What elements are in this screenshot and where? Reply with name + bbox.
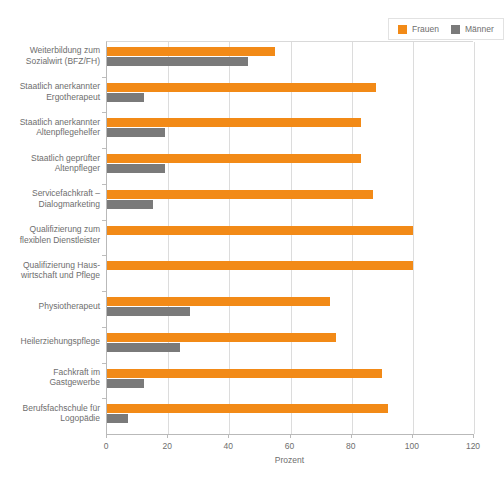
y-axis-label: Servicefachkraft –Dialogmarketing xyxy=(0,188,100,209)
bar-männer[interactable] xyxy=(107,414,128,423)
y-axis-label: Qualifizierung Haus-wirtschaft und Pfleg… xyxy=(0,260,100,281)
y-axis-label-line: Staatlich geprüfter xyxy=(0,153,100,164)
x-axis-tick-label: 80 xyxy=(346,441,355,451)
x-axis-tick xyxy=(228,434,229,438)
legend-item-frauen[interactable]: Frauen xyxy=(398,25,439,34)
y-axis-labels: Weiterbildung zumSozialwirt (BFZ/FH)Staa… xyxy=(0,41,100,434)
bar-frauen[interactable] xyxy=(107,226,413,235)
y-axis-label-line: Ergotherapeut xyxy=(0,92,100,103)
x-axis-title: Prozent xyxy=(0,455,503,465)
y-axis-label-line: flexiblen Dienstleister xyxy=(0,235,100,246)
x-axis-tick xyxy=(167,434,168,438)
bar-group xyxy=(107,185,473,221)
bar-group xyxy=(107,113,473,149)
x-axis-tick xyxy=(473,434,474,438)
y-axis-label-line: Qualifizierung zum xyxy=(0,224,100,235)
legend-swatch-maenner xyxy=(451,25,460,34)
y-axis-label-line: Gastgewerbe xyxy=(0,377,100,388)
bar-frauen[interactable] xyxy=(107,404,388,413)
bar-frauen[interactable] xyxy=(107,369,382,378)
y-axis-label: Berufsfachschule fürLogopädie xyxy=(0,403,100,424)
gridline-120 xyxy=(474,42,475,434)
bar-männer[interactable] xyxy=(107,343,180,352)
y-axis-label: Heilerziehungspflege xyxy=(0,336,100,347)
bar-group xyxy=(107,42,473,78)
x-axis-tick-label: 120 xyxy=(466,441,480,451)
y-axis-label-line: Staatlich anerkannter xyxy=(0,117,100,128)
y-axis-label: Staatlich anerkannterAltenpflegehelfer xyxy=(0,117,100,138)
bar-group xyxy=(107,149,473,185)
bar-frauen[interactable] xyxy=(107,154,361,163)
y-axis-label-line: Altenpfleger xyxy=(0,163,100,174)
legend-swatch-frauen xyxy=(398,25,407,34)
y-axis-label-line: Servicefachkraft – xyxy=(0,188,100,199)
x-axis-title-text: Prozent xyxy=(275,455,304,465)
bar-group xyxy=(107,78,473,114)
plot-area xyxy=(106,41,473,434)
y-axis-label-line: Dialogmarketing xyxy=(0,199,100,210)
chart-legend: Frauen Männer xyxy=(388,18,504,40)
y-axis-label-line: Fachkraft im xyxy=(0,367,100,378)
x-axis-tick-label: 60 xyxy=(285,441,294,451)
y-axis-label-line: Logopädie xyxy=(0,413,100,424)
bar-group xyxy=(107,221,473,257)
y-axis-label: Staatlich anerkannterErgotherapeut xyxy=(0,81,100,102)
y-axis-label-line: Qualifizierung Haus- xyxy=(0,260,100,271)
bar-männer[interactable] xyxy=(107,379,144,388)
y-axis-label: Qualifizierung zumflexiblen Dienstleiste… xyxy=(0,224,100,245)
y-axis-label-line: Staatlich anerkannter xyxy=(0,81,100,92)
x-axis-tick xyxy=(290,434,291,438)
x-axis-tick xyxy=(351,434,352,438)
y-axis-label: Physiotherapeut xyxy=(0,301,100,312)
bar-männer[interactable] xyxy=(107,164,165,173)
legend-label-frauen: Frauen xyxy=(412,25,439,34)
bar-männer[interactable] xyxy=(107,93,144,102)
bar-männer[interactable] xyxy=(107,57,248,66)
y-axis-label: Fachkraft imGastgewerbe xyxy=(0,367,100,388)
y-axis-label-line: wirtschaft und Pflege xyxy=(0,270,100,281)
bar-frauen[interactable] xyxy=(107,83,376,92)
bar-group xyxy=(107,256,473,292)
bar-frauen[interactable] xyxy=(107,190,373,199)
bar-group xyxy=(107,328,473,364)
bar-männer[interactable] xyxy=(107,200,153,209)
bar-frauen[interactable] xyxy=(107,47,275,56)
bar-groups xyxy=(107,42,473,434)
bar-männer[interactable] xyxy=(107,128,165,137)
y-axis-label-line: Sozialwirt (BFZ/FH) xyxy=(0,56,100,67)
y-axis-label: Weiterbildung zumSozialwirt (BFZ/FH) xyxy=(0,45,100,66)
bar-frauen[interactable] xyxy=(107,297,330,306)
x-axis-tick xyxy=(412,434,413,438)
x-axis-tick-label: 40 xyxy=(224,441,233,451)
bar-frauen[interactable] xyxy=(107,118,361,127)
x-axis-tick xyxy=(106,434,107,438)
legend-label-maenner: Männer xyxy=(465,25,494,34)
bar-group xyxy=(107,292,473,328)
bar-group xyxy=(107,399,473,435)
y-axis-label-line: Berufsfachschule für xyxy=(0,403,100,414)
bar-group xyxy=(107,364,473,400)
x-axis-tick-label: 0 xyxy=(104,441,109,451)
y-axis-label-line: Physiotherapeut xyxy=(0,301,100,312)
y-axis-label: Staatlich geprüfterAltenpfleger xyxy=(0,153,100,174)
bar-frauen[interactable] xyxy=(107,333,336,342)
x-axis-tick-label: 100 xyxy=(405,441,419,451)
y-axis-label-line: Weiterbildung zum xyxy=(0,45,100,56)
y-axis-label-line: Altenpflegehelfer xyxy=(0,127,100,138)
bar-frauen[interactable] xyxy=(107,261,413,270)
legend-item-maenner[interactable]: Männer xyxy=(451,25,494,34)
y-axis-label-line: Heilerziehungspflege xyxy=(0,336,100,347)
bar-männer[interactable] xyxy=(107,307,190,316)
x-axis-tick-label: 20 xyxy=(162,441,171,451)
